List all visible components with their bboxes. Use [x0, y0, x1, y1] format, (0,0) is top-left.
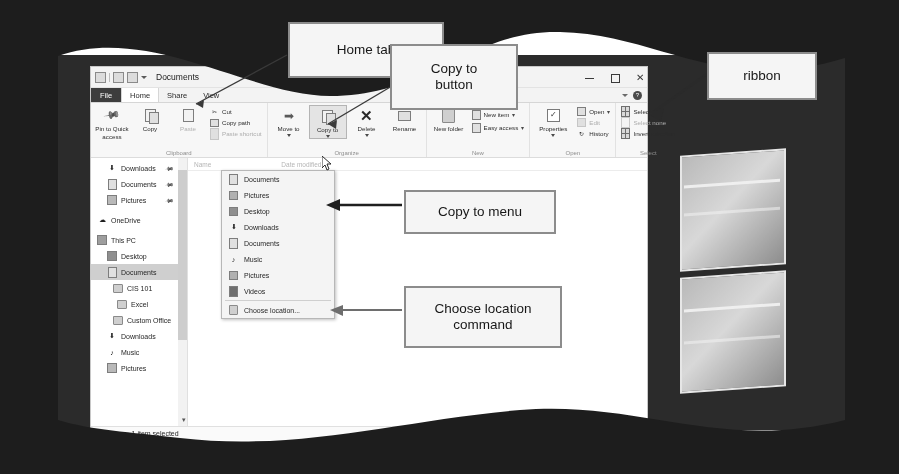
copy-to-menu: Documents Pictures Desktop ⬇ Downloads D…: [221, 170, 335, 319]
menu-item-label: Documents: [244, 240, 279, 247]
mouse-cursor: [322, 156, 334, 172]
document-icon: [229, 238, 238, 248]
music-note-icon: ♪: [229, 254, 238, 264]
menu-item-music[interactable]: ♪ Music: [222, 251, 334, 267]
video-icon: [229, 286, 238, 296]
menu-item-documents-2[interactable]: Documents: [222, 235, 334, 251]
menu-item-label: Documents: [244, 176, 279, 183]
menu-item-choose-location[interactable]: Choose location...: [222, 302, 334, 318]
menu-item-label: Choose location...: [244, 307, 300, 314]
pictures-icon: [229, 190, 238, 200]
download-arrow-icon: ⬇: [229, 222, 238, 232]
menu-item-downloads[interactable]: ⬇ Downloads: [222, 219, 334, 235]
menu-item-pictures-1[interactable]: Pictures: [222, 187, 334, 203]
menu-separator: [225, 300, 331, 301]
document-icon: [229, 174, 238, 184]
menu-item-pictures-2[interactable]: Pictures: [222, 267, 334, 283]
menu-item-label: Desktop: [244, 208, 270, 215]
menu-item-documents-1[interactable]: Documents: [222, 171, 334, 187]
menu-item-videos[interactable]: Videos: [222, 283, 334, 299]
menu-item-label: Pictures: [244, 272, 269, 279]
callout-copy-to-menu: Copy to menu: [404, 190, 556, 234]
menu-item-label: Videos: [244, 288, 265, 295]
menu-item-label: Music: [244, 256, 262, 263]
callout-ribbon: ribbon: [707, 52, 817, 100]
menu-item-desktop[interactable]: Desktop: [222, 203, 334, 219]
menu-item-label: Downloads: [244, 224, 279, 231]
callout-choose-location-command: Choose location command: [404, 286, 562, 348]
callout-copy-to-button: Copy to button: [390, 44, 518, 110]
desktop-icon: [229, 206, 238, 216]
menu-item-label: Pictures: [244, 192, 269, 199]
folder-icon: [229, 305, 238, 315]
pictures-icon: [229, 270, 238, 280]
